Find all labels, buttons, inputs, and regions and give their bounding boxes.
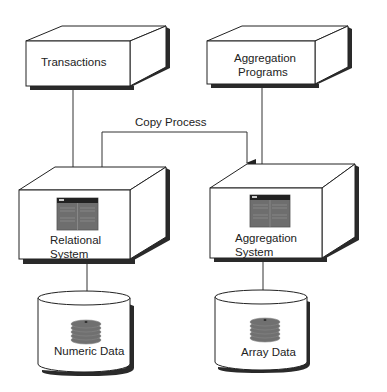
numeric-data-label: Numeric Data (54, 345, 125, 357)
diagram-canvas: Transactions Aggregation Programs Copy P… (0, 0, 387, 392)
numeric-data-cylinder: Numeric Data (38, 291, 134, 376)
array-data-cylinder: Array Data (215, 290, 310, 373)
aggregation-programs-box: Aggregation Programs (207, 26, 352, 88)
aggregation-system-box: Aggregation System (210, 164, 359, 262)
aggregation-system-label-line1: Aggregation (235, 232, 297, 244)
table-screen-icon (250, 195, 290, 227)
copy-process-label: Copy Process (135, 116, 207, 128)
relational-system-box: Relational System (19, 167, 170, 264)
aggregation-programs-label-line2: Programs (238, 66, 288, 78)
transactions-label: Transactions (41, 56, 107, 68)
array-data-label: Array Data (241, 346, 297, 358)
disk-stack-icon (250, 318, 280, 342)
table-screen-icon (57, 198, 98, 230)
aggregation-system-label-line2: System (235, 246, 273, 258)
aggregation-programs-label-line1: Aggregation (234, 52, 296, 64)
disk-stack-icon (71, 320, 101, 344)
edge-copy-process (102, 132, 247, 168)
transactions-box: Transactions (26, 26, 170, 90)
relational-system-label-line1: Relational (50, 234, 101, 246)
relational-system-label-line2: System (50, 248, 88, 260)
